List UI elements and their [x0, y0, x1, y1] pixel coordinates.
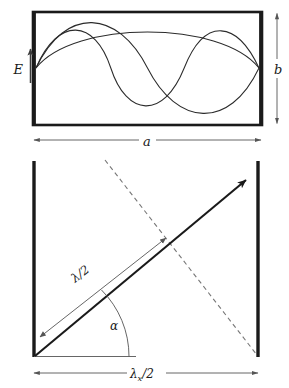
field-mode-n1: [36, 32, 259, 68]
height-label: b: [274, 62, 282, 77]
figure-canvas: E b a λ/2 α λx/2: [0, 0, 289, 388]
guide-wavelength-symbol: λ: [129, 367, 138, 381]
field-label: E: [13, 62, 24, 77]
field-mode-n2: [36, 23, 259, 114]
half-wavelength-label-group: λ/2: [65, 253, 102, 287]
guide-wavelength-label: λx/2: [129, 367, 154, 383]
width-label: a: [143, 134, 151, 149]
panel-waveguide-cross-section: E b a: [13, 12, 286, 149]
panel-ray-geometry: λ/2 α λx/2: [34, 160, 258, 383]
physics-figure: E b a λ/2 α λx/2: [0, 0, 289, 388]
half-wavelength-arrow: [40, 238, 166, 337]
guide-wavelength-suffix: /2: [141, 367, 154, 381]
angle-label: α: [110, 319, 118, 333]
